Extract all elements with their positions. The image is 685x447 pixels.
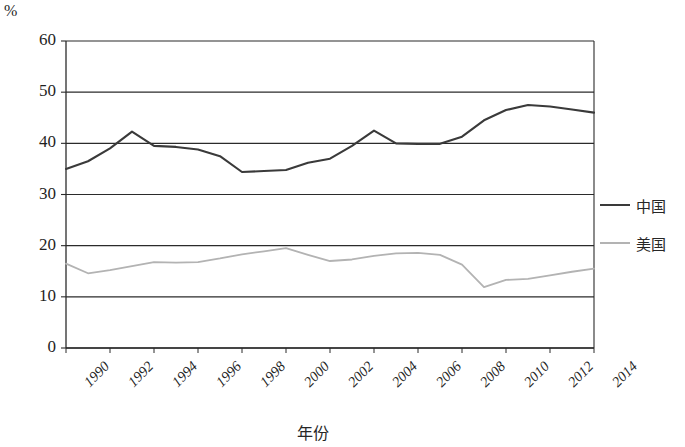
legend-item-usa: 美国 [600, 224, 685, 262]
y-tick-label-60: 60 [10, 30, 56, 50]
series-line-usa [66, 248, 594, 287]
y-tick-label-40: 40 [10, 132, 56, 152]
y-axis-unit-label: % [4, 2, 17, 20]
chart-legend: 中国 美国 [600, 186, 685, 262]
legend-line-swatch-usa [600, 242, 630, 244]
chart-figure: % 年份 中国 美国 01020304050601990199219941996… [0, 0, 685, 447]
legend-label-usa: 美国 [636, 233, 666, 254]
x-axis-title: 年份 [297, 420, 329, 444]
y-tick-label-10: 10 [10, 286, 56, 306]
legend-label-china: 中国 [636, 195, 666, 216]
series-line-china [66, 105, 594, 172]
y-tick-label-20: 20 [10, 235, 56, 255]
legend-item-china: 中国 [600, 186, 685, 224]
y-tick-label-0: 0 [10, 337, 56, 357]
y-tick-label-30: 30 [10, 184, 56, 204]
y-tick-label-50: 50 [10, 81, 56, 101]
legend-line-swatch-china [600, 204, 630, 206]
